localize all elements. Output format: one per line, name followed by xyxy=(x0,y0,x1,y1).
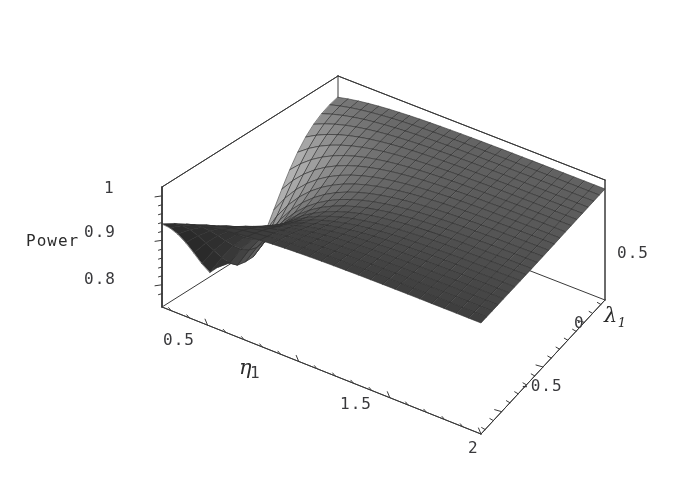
z-axis-label: Power xyxy=(26,231,79,250)
y-axis-label-base: λ xyxy=(604,303,618,327)
x-tick-label: 0.5 xyxy=(163,330,195,349)
y-axis-label-subscript: 1 xyxy=(618,315,627,330)
z-tick-label: 0.8 xyxy=(84,269,116,288)
y-axis-label: λ1 xyxy=(604,303,627,330)
x-tick-label: 2 xyxy=(468,438,479,457)
y-tick-label: -0.5 xyxy=(520,376,563,395)
z-tick-label: 1 xyxy=(104,178,115,197)
y-tick-label: 0 xyxy=(574,313,585,332)
surface-plot-figure: Power η λ1 1 0.9 0.8 0.5 1 1.5 2 0.5 0 -… xyxy=(0,0,674,481)
y-tick-label: 0.5 xyxy=(617,243,649,262)
x-tick-label: 1.5 xyxy=(340,394,372,413)
z-tick-label: 0.9 xyxy=(84,222,116,241)
x-tick-label: 1 xyxy=(250,363,261,382)
